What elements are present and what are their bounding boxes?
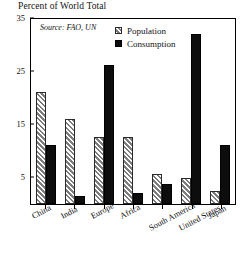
y-tick-label: 5 bbox=[21, 172, 25, 182]
y-tick-label: 35 bbox=[17, 13, 26, 23]
bar-group bbox=[181, 18, 201, 204]
bar-group bbox=[210, 18, 230, 204]
y-tick-label: 25 bbox=[17, 66, 26, 76]
bar-population bbox=[65, 119, 75, 204]
bar-population bbox=[94, 137, 104, 203]
x-axis-label: China bbox=[30, 202, 53, 220]
bar-consumption bbox=[75, 196, 85, 204]
bar-consumption bbox=[220, 145, 230, 203]
bar-group bbox=[94, 18, 114, 204]
bar-consumption bbox=[104, 65, 114, 204]
y-tick-mark bbox=[30, 71, 34, 72]
bars-container bbox=[31, 18, 235, 204]
y-axis-title: Percent of World Total bbox=[18, 1, 106, 11]
y-tick-mark bbox=[30, 124, 34, 125]
bar-population bbox=[210, 191, 220, 204]
bar-group bbox=[36, 18, 56, 204]
y-tick-mark bbox=[30, 18, 34, 19]
bar-consumption bbox=[191, 34, 201, 204]
bar-chart: Percent of World Total Source: FAO, UN P… bbox=[0, 0, 248, 256]
bar-population bbox=[123, 137, 133, 203]
bar-group bbox=[152, 18, 172, 204]
bar-consumption bbox=[162, 184, 172, 204]
bar-population bbox=[152, 174, 162, 204]
y-tick-label: 15 bbox=[17, 119, 26, 129]
bar-group bbox=[123, 18, 143, 204]
bar-group bbox=[65, 18, 85, 204]
bar-population bbox=[36, 92, 46, 203]
x-axis-label: India bbox=[59, 204, 79, 221]
x-axis-label: Africa bbox=[118, 202, 142, 221]
y-tick-mark bbox=[30, 177, 34, 178]
bar-consumption bbox=[46, 145, 56, 203]
x-axis-labels: ChinaIndiaEuropeAfricaSouth AmericaUnite… bbox=[30, 205, 236, 255]
